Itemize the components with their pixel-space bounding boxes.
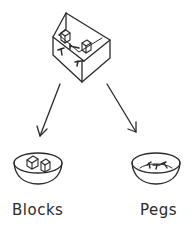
block-icon — [82, 40, 91, 53]
arrow-to-pegs — [107, 84, 136, 132]
label-pegs: Pegs — [140, 203, 177, 218]
bowl-pegs-icon — [132, 153, 180, 184]
block-icon — [41, 159, 50, 172]
block-icon — [27, 156, 38, 169]
label-blocks: Blocks — [12, 203, 63, 218]
bowl-blocks-icon — [14, 153, 62, 184]
block-icon — [61, 30, 70, 43]
peg-icon — [147, 162, 167, 169]
arrow-to-blocks — [37, 84, 60, 136]
